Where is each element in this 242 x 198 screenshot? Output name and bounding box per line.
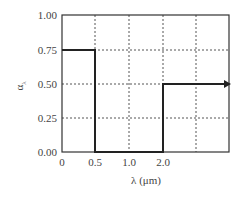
svg-text:1.00: 1.00 (38, 9, 58, 21)
y-axis-label: αλ (13, 81, 28, 91)
arrow-head-icon (224, 80, 231, 88)
svg-text:0: 0 (59, 156, 65, 168)
svg-text:αλ: αλ (13, 81, 28, 91)
y-ticks: 1.00 0.75 0.50 0.25 0.00 (38, 9, 58, 158)
svg-text:0.50: 0.50 (38, 78, 58, 90)
svg-text:0.5: 0.5 (88, 156, 102, 168)
svg-text:1.0: 1.0 (122, 156, 136, 168)
data-series (62, 50, 224, 152)
svg-text:0.25: 0.25 (38, 112, 58, 124)
svg-text:0.75: 0.75 (38, 44, 58, 56)
chart: 1.00 0.75 0.50 0.25 0.00 0 0.5 1.0 2.0 λ… (0, 0, 242, 198)
svg-text:0.00: 0.00 (38, 146, 58, 158)
x-ticks: 0 0.5 1.0 2.0 (59, 156, 170, 168)
x-axis-label: λ (μm) (131, 174, 161, 187)
svg-text:2.0: 2.0 (156, 156, 170, 168)
